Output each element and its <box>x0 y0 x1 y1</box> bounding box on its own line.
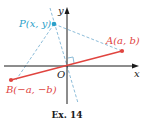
label-p: P(x, y) <box>18 18 51 29</box>
point-a <box>120 49 124 53</box>
dashed-line-pb <box>16 24 54 80</box>
label-y-axis: y <box>57 5 64 16</box>
point-p <box>52 22 57 27</box>
label-b: B(−a, −b) <box>5 84 57 95</box>
point-b <box>9 78 13 82</box>
right-angle-icon <box>68 57 74 63</box>
label-origin: O <box>57 69 65 80</box>
diagram-canvas: P(x, y) A(a, b) B(−a, −b) O x y Ex. 14 <box>0 0 151 124</box>
caption: Ex. 14 <box>51 110 82 120</box>
label-x-axis: x <box>134 68 140 79</box>
label-a: A(a, b) <box>105 35 140 46</box>
y-axis-arrow-icon <box>65 7 70 14</box>
